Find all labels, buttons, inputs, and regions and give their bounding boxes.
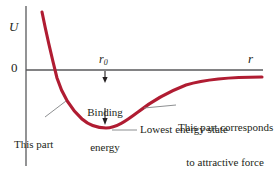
origin-label: 0	[11, 61, 18, 75]
equilibrium-separation-label: r0	[99, 53, 108, 66]
repulsive-force-label: This part corresponds to repulsive force	[14, 116, 120, 171]
equilibrium-separation-subscript: 0	[104, 58, 108, 67]
x-axis-label: r	[248, 52, 253, 66]
equilibrium-separation-symbol: r	[99, 52, 104, 66]
potential-energy-diagram: U 0 r r0 Binding energy This part corres…	[0, 0, 277, 171]
lowest-energy-state-label: Lowest energy state	[140, 124, 228, 136]
repulsive-leader-line	[45, 101, 66, 117]
repulsive-force-line-1: This part	[14, 139, 120, 151]
attractive-force-line-2: to attractive force	[178, 157, 272, 169]
y-axis-label: U	[9, 20, 18, 34]
equilibrium-arrow-head	[102, 77, 107, 83]
